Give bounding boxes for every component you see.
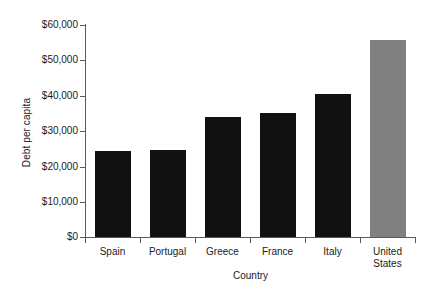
- bar-united-states[interactable]: [370, 40, 406, 237]
- y-tick-label: $0: [22, 232, 78, 242]
- y-tick-label: $40,000: [22, 91, 78, 101]
- y-axis-line: [85, 24, 86, 238]
- x-tick-label-portugal: Portugal: [140, 246, 195, 258]
- x-axis-tick: [195, 238, 196, 243]
- y-axis-tick: [80, 25, 85, 26]
- y-axis-tick: [80, 167, 85, 168]
- x-axis-tick: [250, 238, 251, 243]
- x-axis-tick: [305, 238, 306, 243]
- y-axis-tick: [80, 60, 85, 61]
- x-tick-label-spain: Spain: [85, 246, 140, 258]
- x-tick-label-united-states: UnitedStates: [360, 246, 415, 270]
- y-axis-tick: [80, 202, 85, 203]
- x-axis-tick: [140, 238, 141, 243]
- y-tick-label: $20,000: [22, 162, 78, 172]
- y-tick-label: $60,000: [22, 20, 78, 30]
- x-axis-tick: [360, 238, 361, 243]
- bar-portugal[interactable]: [150, 150, 186, 237]
- y-tick-label: $50,000: [22, 55, 78, 65]
- y-axis-tick-labels: $60,000 $50,000 $40,000 $30,000 $20,000 …: [16, 0, 78, 293]
- y-axis-tick: [80, 96, 85, 97]
- x-tick-label-france: France: [250, 246, 305, 258]
- y-tick-label: $30,000: [22, 126, 78, 136]
- x-axis-tick: [85, 238, 86, 243]
- x-axis-tick: [415, 238, 416, 243]
- y-tick-label: $10,000: [22, 197, 78, 207]
- x-axis-title: Country: [85, 270, 416, 281]
- y-axis-tick: [80, 131, 85, 132]
- bar-spain[interactable]: [95, 151, 131, 237]
- bar-chart: Debt per capita $60,000 $50,000 $40,000 …: [0, 0, 429, 293]
- bar-italy[interactable]: [315, 94, 351, 237]
- x-tick-label-italy: Italy: [305, 246, 360, 258]
- bar-greece[interactable]: [205, 117, 241, 237]
- x-tick-label-greece: Greece: [195, 246, 250, 258]
- bar-france[interactable]: [260, 113, 296, 237]
